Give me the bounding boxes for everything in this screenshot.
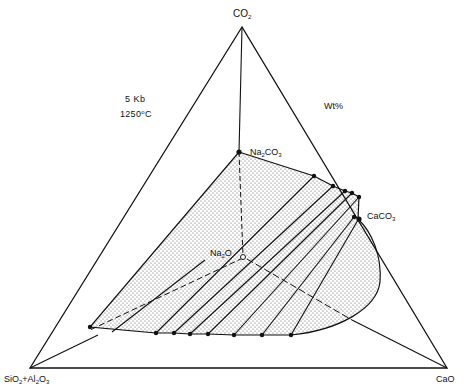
co2-na2co3-join — [239, 27, 242, 152]
vertex-label-sio2-al2o3: SiO2+Al2O3 — [4, 375, 49, 385]
na2o-point — [241, 255, 246, 260]
ternary-diagram — [0, 0, 470, 392]
temperature-label: 1250oC — [120, 109, 152, 119]
na2co3-point — [236, 149, 241, 154]
caco3-point — [356, 216, 361, 221]
pressure-label: 5 Kb — [125, 95, 146, 104]
vertex-label-co2: CO2 — [233, 9, 251, 20]
na2o-label: Na2O — [210, 249, 232, 259]
na2co3-label: Na2CO3 — [250, 148, 282, 158]
vertex-label-cao: CaO — [436, 375, 455, 384]
caco3-label: CaCO3 — [367, 212, 395, 222]
units-label: Wt% — [324, 102, 343, 111]
